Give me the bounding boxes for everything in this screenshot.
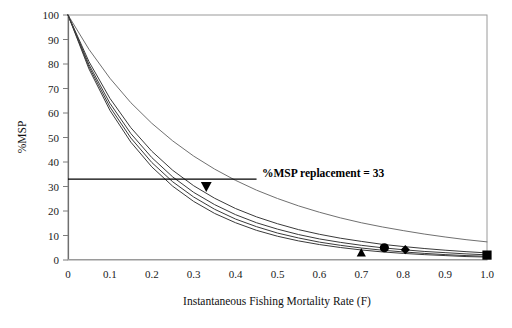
x-tick-label-0.4: 0.4 [229, 268, 243, 280]
marker-circle [380, 243, 389, 252]
y-tick-label-20: 20 [48, 205, 60, 217]
x-tick-label-0: 0 [65, 268, 71, 280]
x-tick-label-0.5: 0.5 [271, 268, 285, 280]
y-tick-label-40: 40 [48, 156, 60, 168]
y-tick-label-90: 90 [48, 34, 60, 46]
y-tick-label-60: 60 [48, 107, 60, 119]
x-tick-label-0.3: 0.3 [187, 268, 201, 280]
x-tick-label-1.0: 1.0 [480, 268, 494, 280]
x-tick-label-0.8: 0.8 [396, 268, 410, 280]
marker-square [482, 251, 491, 260]
y-axis-title: %MSP [16, 121, 28, 154]
x-tick-label-0.6: 0.6 [313, 268, 327, 280]
y-tick-label-10: 10 [48, 230, 60, 242]
x-tick-label-0.1: 0.1 [103, 268, 117, 280]
x-tick-label-0.9: 0.9 [438, 268, 452, 280]
x-axis-title: Instantaneous Fishing Mortality Rate (F) [183, 295, 371, 308]
y-tick-label-0: 0 [54, 254, 60, 266]
x-tick-label-0.7: 0.7 [354, 268, 368, 280]
y-tick-label-70: 70 [48, 83, 60, 95]
chart-figure: 0102030405060708090100 00.10.20.30.40.50… [0, 0, 512, 328]
chart-background [0, 0, 512, 328]
y-tick-label-100: 100 [43, 9, 60, 21]
msp-vs-fishing-mortality-chart: 0102030405060708090100 00.10.20.30.40.50… [0, 0, 512, 328]
y-tick-label-50: 50 [48, 132, 60, 144]
msp-replacement-annotation-label: %MSP replacement = 33 [262, 167, 385, 180]
x-tick-label-0.2: 0.2 [145, 268, 159, 280]
y-tick-label-80: 80 [48, 58, 60, 70]
y-tick-label-30: 30 [48, 181, 60, 193]
